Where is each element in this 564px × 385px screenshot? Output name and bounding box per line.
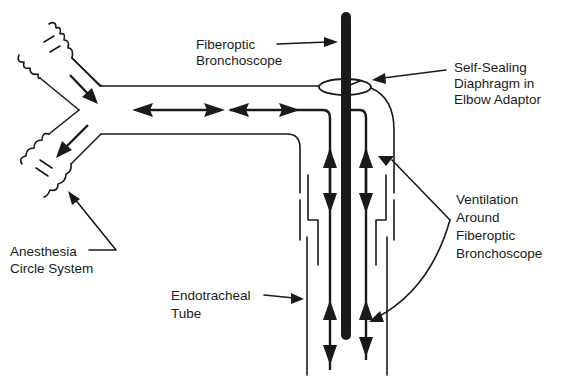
label-line: Endotracheal	[171, 288, 251, 303]
pointer-line	[74, 198, 116, 250]
pointer-arrowhead-icon	[372, 73, 386, 84]
label-line: Anesthesia	[10, 244, 77, 259]
label-line: Fiberoptic	[456, 228, 516, 243]
label-self-sealing-diaphragm: Self-Sealing Diaphragm in Elbow Adaptor	[372, 60, 542, 107]
label-line: Around	[456, 210, 500, 225]
label-line: Bronchoscope	[456, 246, 542, 261]
label-line: Ventilation	[456, 192, 518, 207]
fiberoptic-bronchoscope-rod	[341, 12, 351, 340]
pointer-arrowhead-icon	[324, 37, 338, 47]
pointer-line	[264, 295, 294, 298]
label-line: Tube	[171, 306, 201, 321]
pointer-arrowhead-icon	[291, 293, 304, 304]
label-line: Fiberoptic	[196, 37, 256, 52]
pointer-arrowhead-icon	[378, 156, 394, 166]
upper-corrugated-cuff	[49, 23, 73, 58]
adaptor-right-wall	[371, 88, 394, 193]
label-line: Diaphragm in	[454, 76, 534, 91]
label-line: Self-Sealing	[454, 60, 527, 75]
expiratory-flow-arrow	[66, 125, 88, 147]
adaptor-bottom-wall	[101, 134, 300, 193]
pointer-line	[383, 70, 446, 78]
label-endotracheal-tube: Endotracheal Tube	[171, 288, 304, 321]
label-line: Bronchoscope	[196, 53, 282, 68]
upper-limb-wall-inner	[40, 78, 79, 110]
y-junction-notch	[49, 110, 79, 134]
pointer-line-upper	[392, 160, 450, 220]
bronchoscopy-ventilation-diagram: Fiberoptic Bronchoscope Self-Sealing Dia…	[0, 0, 564, 385]
label-fiberoptic-bronchoscope: Fiberoptic Bronchoscope	[196, 37, 338, 68]
label-anesthesia-circle: Anesthesia Circle System	[10, 191, 116, 276]
anesthesia-circle-system	[18, 23, 102, 197]
pointer-line	[277, 42, 328, 44]
label-ventilation-around: Ventilation Around Fiberoptic Bronchosco…	[369, 156, 542, 322]
label-line: Circle System	[10, 261, 93, 276]
horizontal-flow-to-left-channel	[230, 110, 330, 200]
label-line: Elbow Adaptor	[454, 92, 542, 107]
lower-corrugated-cuff	[21, 134, 49, 164]
